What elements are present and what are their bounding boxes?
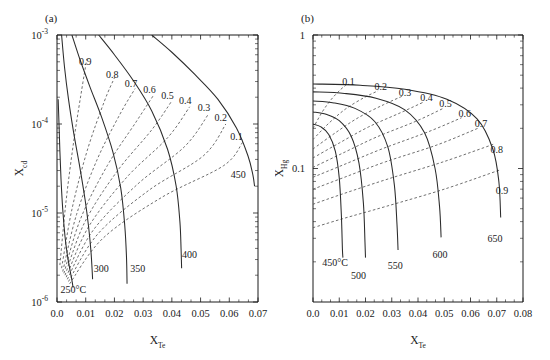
isotherm-temperature-label: 450°C xyxy=(322,257,348,268)
y-tick-label: 0.1 xyxy=(292,163,305,174)
x-tick-label: 0.05 xyxy=(191,308,209,319)
contour-label: 0.6 xyxy=(458,108,471,119)
isotherm-curve xyxy=(62,35,93,279)
y-tick-label: 10-5 xyxy=(31,205,48,219)
contour-label: 0.3 xyxy=(399,87,412,98)
contour-label: 0.2 xyxy=(214,112,227,123)
contour-label: 0.7 xyxy=(475,118,488,129)
isotherm-temperature-label: 400 xyxy=(182,249,197,260)
contour-label: 0.5 xyxy=(439,98,452,109)
composition-contour xyxy=(313,102,424,158)
composition-contour xyxy=(65,101,172,275)
isotherm-temperature-label: 350 xyxy=(130,263,145,274)
isotherm-curve xyxy=(72,35,127,284)
isotherm-temperature-label: 500 xyxy=(351,270,366,281)
y-tick-label: 10-4 xyxy=(31,116,48,130)
y-axis-title: Xcd xyxy=(13,161,29,177)
x-tick-label: 0.08 xyxy=(514,308,532,319)
composition-contour xyxy=(313,108,443,167)
contour-label: 0.4 xyxy=(179,95,192,106)
x-tick-label: 0.04 xyxy=(409,308,428,319)
isotherm-temperature-label: 450 xyxy=(231,169,246,180)
contour-label: 0.7 xyxy=(125,78,138,89)
isotherm-temperature-label: 650 xyxy=(488,233,503,244)
isotherm-temperature-label: 600 xyxy=(432,249,447,260)
x-axis-title: XTe xyxy=(150,334,166,350)
x-tick-label: 0.02 xyxy=(105,308,123,319)
x-tick-label: 0.0 xyxy=(50,308,63,319)
isotherm-temperature-label: 550 xyxy=(388,260,403,271)
isotherm-temperature-label: 250°C xyxy=(60,284,86,295)
y-tick-label: 10-6 xyxy=(31,294,48,308)
isotherm-temperature-label: 300 xyxy=(94,263,109,274)
contour-label: 0.1 xyxy=(230,131,243,142)
isotherm-curve xyxy=(313,101,398,250)
isotherm-curve xyxy=(313,124,343,258)
isotherm-curve xyxy=(313,112,366,258)
composition-contour xyxy=(313,128,478,189)
contour-label: 0.9 xyxy=(496,185,509,196)
composition-contour xyxy=(64,95,154,273)
contour-label: 0.6 xyxy=(143,84,156,95)
composition-contour xyxy=(313,96,402,149)
x-tick-label: 0.01 xyxy=(77,308,95,319)
panel-tag: (a) xyxy=(45,12,58,25)
x-tick-label: 0.07 xyxy=(249,308,267,319)
y-tick-label: 1 xyxy=(300,30,305,41)
y-axis-title: XHg xyxy=(275,160,289,178)
figure-container: 0.00.010.020.030.040.050.060.0710-310-41… xyxy=(0,0,550,360)
contour-label: 0.8 xyxy=(491,144,504,155)
contour-label: 0.4 xyxy=(420,92,433,103)
x-tick-label: 0.07 xyxy=(488,308,506,319)
curves-group xyxy=(313,84,501,258)
contour-label: 0.8 xyxy=(106,69,119,80)
contour-label: 0.5 xyxy=(161,90,174,101)
x-axis-title: XTe xyxy=(410,334,426,350)
plot-a: 0.00.010.020.030.040.050.060.0710-310-41… xyxy=(0,0,275,360)
x-tick-label: 0.02 xyxy=(356,308,374,319)
plot-b: 0.00.010.020.030.040.050.060.070.0810.10… xyxy=(275,0,550,360)
contour-label: 0.1 xyxy=(342,76,355,87)
panel-a: 0.00.010.020.030.040.050.060.0710-310-41… xyxy=(0,0,275,360)
composition-contour xyxy=(68,124,225,281)
y-tick-label: 10-3 xyxy=(31,27,48,41)
curves-group xyxy=(58,35,254,288)
composition-contour xyxy=(313,118,462,178)
panel-tag: (b) xyxy=(301,12,314,25)
x-tick-label: 0.05 xyxy=(435,308,453,319)
composition-contour xyxy=(313,91,378,140)
composition-contour xyxy=(63,89,135,272)
x-tick-label: 0.04 xyxy=(163,308,182,319)
x-tick-label: 0.06 xyxy=(220,308,238,319)
x-tick-label: 0.01 xyxy=(330,308,348,319)
x-tick-label: 0.0 xyxy=(306,308,319,319)
x-tick-label: 0.03 xyxy=(134,308,152,319)
composition-contour xyxy=(60,59,87,265)
contour-label: 0.3 xyxy=(198,102,211,113)
panel-b: 0.00.010.020.030.040.050.060.070.0810.10… xyxy=(275,0,550,360)
contour-label: 0.9 xyxy=(79,56,92,67)
x-tick-label: 0.06 xyxy=(461,308,479,319)
x-tick-label: 0.03 xyxy=(383,308,401,319)
contour-label: 0.2 xyxy=(374,81,387,92)
